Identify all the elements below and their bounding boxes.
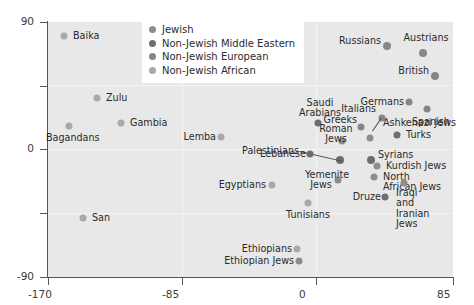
point-lebanese[interactable] [307, 151, 314, 158]
point-label-baika: Baika [73, 31, 99, 41]
point-label-syrians: Syrians [378, 150, 413, 160]
point-zulu[interactable] [94, 95, 101, 102]
gridline-horizontal-45 [48, 85, 453, 86]
point-russians[interactable] [383, 42, 391, 50]
point-druze[interactable] [382, 194, 389, 201]
point-tunisians[interactable] [305, 200, 312, 207]
point-greeks[interactable] [358, 124, 365, 131]
legend-item-non-jewish-middle-eastern[interactable]: Non-Jewish Middle Eastern [149, 37, 295, 51]
y-tick-90 [40, 22, 48, 23]
x-tick-85 [453, 278, 454, 285]
point-label-ethiopian-jews: Ethiopian Jews [208, 256, 294, 266]
x-ticklabel-85: 85 [437, 288, 471, 300]
point-label-gambia: Gambia [130, 118, 167, 128]
x-ticklabel-neg85: -85 [162, 288, 202, 300]
point-label-iraqi-iranian-jews: Iraqi and Iranian Jews [396, 188, 438, 229]
point-label-austrians: Austrians [400, 33, 452, 43]
x-tick-0 [316, 278, 317, 285]
point-ashkenazi-jews[interactable] [367, 135, 374, 142]
point-egyptians[interactable] [269, 182, 276, 189]
legend-swatch-non-jewish-african-icon [149, 67, 156, 74]
legend-swatch-non-jewish-middle-eastern-icon [149, 40, 156, 47]
legend-item-non-jewish-african[interactable]: Non-Jewish African [149, 64, 295, 78]
legend-item-non-jewish-european[interactable]: Non-Jewish European [149, 50, 295, 64]
point-label-lebanese: Lebanese [248, 149, 306, 159]
point-label-lemba: Lemba [160, 132, 216, 142]
legend-item-jewish[interactable]: Jewish [149, 23, 295, 37]
point-label-british: British [383, 66, 429, 76]
gridline-vertical-0 [316, 22, 317, 277]
y-tick-neg45 [40, 213, 48, 214]
point-turks[interactable] [394, 132, 401, 139]
scatter-plot-figure: 90 0 -90 -170 -85 0 85 Baika Zulu Gambia… [0, 0, 474, 305]
point-label-turks: Turks [406, 130, 431, 140]
y-tick-0 [40, 149, 48, 150]
point-label-san: San [92, 213, 110, 223]
point-label-druze: Druze [339, 192, 381, 202]
legend-label-jewish: Jewish [162, 24, 194, 35]
point-spanish[interactable] [424, 106, 431, 113]
point-label-bagandans: Bagandans [46, 133, 100, 143]
legend-swatch-jewish-icon [149, 26, 156, 33]
point-bagandans[interactable] [66, 123, 73, 130]
point-kurdish-jews[interactable] [374, 163, 381, 170]
point-ethiopians[interactable] [294, 246, 301, 253]
legend-swatch-non-jewish-european-icon [149, 53, 156, 60]
legend-label-non-jewish-european: Non-Jewish European [162, 51, 269, 62]
point-north-african-jews[interactable] [371, 174, 378, 181]
point-label-spanish: Spanish [412, 117, 450, 127]
point-gambia[interactable] [118, 120, 125, 127]
point-austrians[interactable] [419, 49, 427, 57]
legend-label-non-jewish-african: Non-Jewish African [162, 65, 256, 76]
point-label-egyptians: Egyptians [204, 180, 266, 190]
point-lemba[interactable] [218, 134, 225, 141]
point-label-russians: Russians [329, 36, 381, 46]
x-ticklabel-0: 0 [299, 288, 333, 300]
point-baika[interactable] [61, 33, 68, 40]
point-ethiopian-jews[interactable] [296, 258, 303, 265]
x-tick-neg170 [48, 278, 49, 285]
point-label-yemenite-jews: Yemenite Jews [305, 170, 337, 191]
point-germans[interactable] [406, 99, 413, 106]
point-label-kurdish-jews: Kurdish Jews [386, 161, 446, 171]
y-tick-neg90 [40, 277, 48, 278]
point-label-greeks: Greeks [315, 115, 357, 125]
legend-label-non-jewish-middle-eastern: Non-Jewish Middle Eastern [162, 38, 295, 49]
point-label-roman-jews: Roman Jews [317, 124, 355, 145]
y-ticklabel-0: 0 [0, 142, 34, 154]
point-label-tunisians: Tunisians [279, 210, 337, 220]
point-label-germans: Germans [350, 97, 404, 107]
point-british[interactable] [431, 72, 439, 80]
x-ticklabel-neg170: -170 [28, 288, 68, 300]
y-ticklabel-neg90: -90 [0, 270, 34, 282]
x-axis-line [47, 277, 454, 278]
point-label-zulu: Zulu [106, 93, 127, 103]
y-tick-45 [40, 86, 48, 87]
point-san[interactable] [80, 215, 87, 222]
legend: Jewish Non-Jewish Middle Eastern Non-Jew… [142, 18, 304, 83]
point-label-ethiopians: Ethiopians [228, 244, 292, 254]
x-tick-neg85 [182, 278, 183, 285]
y-ticklabel-90: 90 [0, 15, 34, 27]
point-iraqi-iranian-jews[interactable] [401, 180, 408, 187]
